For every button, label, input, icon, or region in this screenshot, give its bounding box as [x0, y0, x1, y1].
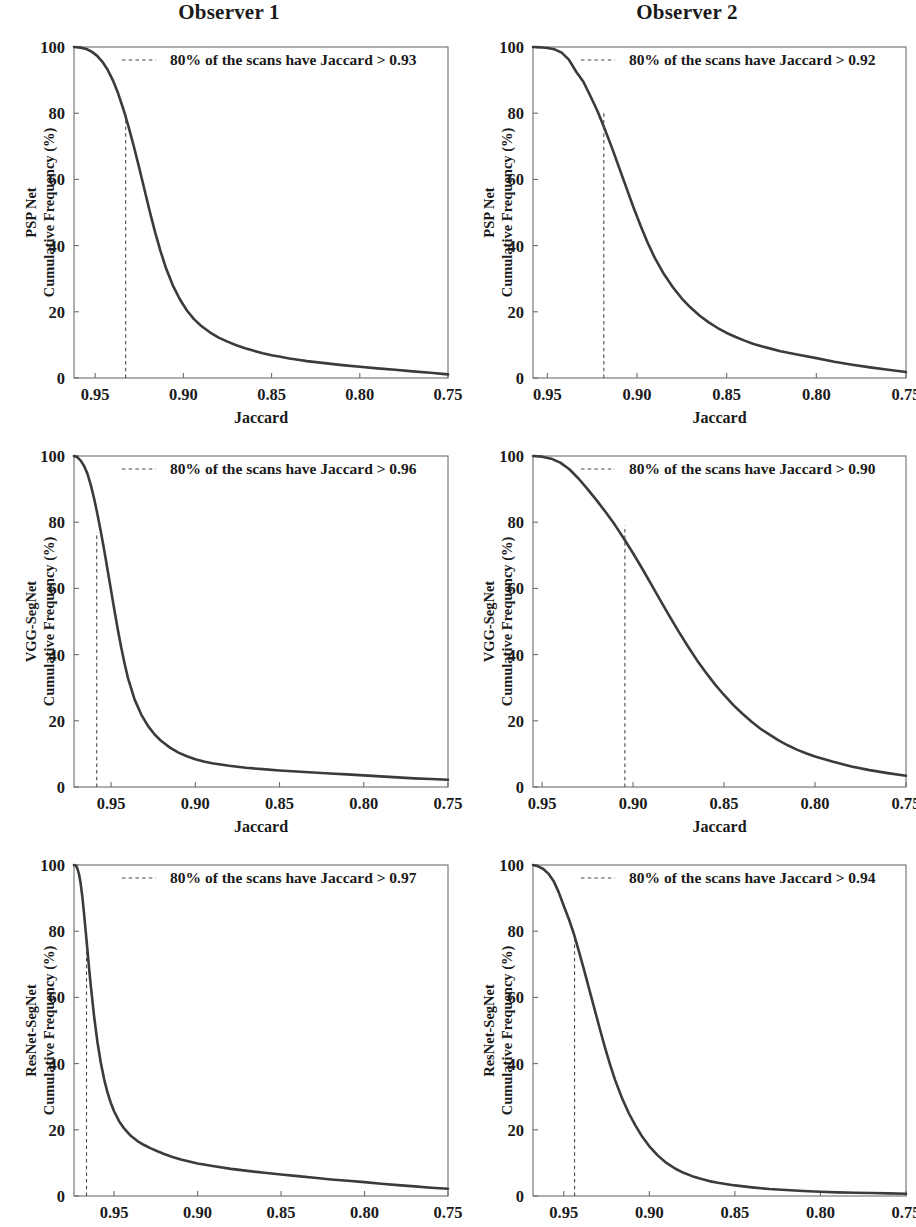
x-tick-label: 0.80	[349, 794, 378, 813]
x-tick-label: 0.80	[350, 1203, 379, 1222]
y-axis-model-label: VGG-SegNet	[481, 581, 497, 663]
y-axis-metric-label: Cumulative Frequency (%)	[499, 127, 516, 297]
panel-vgg-observer2: 0204060801000.950.900.850.800.75JaccardV…	[458, 409, 916, 818]
legend-annotation-text: 80% of the scans have Jaccard > 0.96	[170, 460, 417, 477]
y-tick-label: 0	[57, 1187, 65, 1206]
x-tick-label: 0.90	[183, 1203, 212, 1222]
y-tick-label: 100	[499, 38, 524, 57]
x-tick-label: 0.95	[97, 794, 126, 813]
y-tick-label: 100	[40, 856, 65, 875]
x-tick-label: 0.75	[892, 794, 916, 813]
panel-resnet-observer1: 0204060801000.950.900.850.800.75JaccardR…	[0, 818, 458, 1227]
y-tick-label: 20	[508, 712, 525, 731]
y-tick-label: 80	[49, 104, 66, 123]
x-tick-label: 0.85	[712, 385, 741, 404]
legend-annotation-text: 80% of the scans have Jaccard > 0.93	[170, 51, 417, 68]
y-tick-label: 0	[57, 778, 65, 797]
cumulative-frequency-curve	[74, 456, 448, 780]
x-tick-label: 0.95	[100, 1203, 129, 1222]
cumulative-frequency-figure: Observer 1 0204060801000.950.900.850.800…	[0, 0, 916, 1227]
column-title-observer-1: Observer 1	[0, 0, 458, 25]
y-tick-label: 0	[57, 369, 65, 388]
y-tick-label: 100	[40, 447, 65, 466]
y-tick-label: 100	[499, 856, 524, 875]
x-tick-label: 0.95	[533, 385, 562, 404]
cumulative-frequency-curve	[533, 865, 906, 1194]
x-tick-label: 0.90	[169, 385, 198, 404]
y-axis-model-label: ResNet-SegNet	[481, 984, 497, 1077]
chart-vgg-observer2: 0204060801000.950.900.850.800.75JaccardV…	[458, 409, 916, 818]
x-tick-label: 0.90	[623, 385, 652, 404]
x-tick-label: 0.80	[345, 385, 374, 404]
x-tick-label: 0.80	[801, 794, 830, 813]
cumulative-frequency-curve	[533, 47, 906, 372]
x-tick-label: 0.85	[710, 794, 739, 813]
panel-resnet-observer2: 0204060801000.950.900.850.800.75JaccardR…	[458, 818, 916, 1227]
y-tick-label: 100	[40, 38, 65, 57]
legend-annotation-text: 80% of the scans have Jaccard > 0.94	[629, 869, 876, 886]
plot-frame	[533, 865, 906, 1196]
x-tick-label: 0.85	[265, 794, 294, 813]
plot-frame	[74, 47, 448, 378]
x-tick-label: 0.80	[806, 1203, 835, 1222]
y-axis-model-label: ResNet-SegNet	[23, 984, 39, 1077]
x-tick-label: 0.75	[892, 1203, 916, 1222]
x-tick-label: 0.85	[257, 385, 286, 404]
chart-vgg-observer1: 0204060801000.950.900.850.800.75JaccardV…	[0, 409, 458, 818]
chart-psp-observer2: 0204060801000.950.900.850.800.75JaccardP…	[458, 0, 916, 409]
y-tick-label: 80	[508, 104, 525, 123]
x-tick-label: 0.85	[720, 1203, 749, 1222]
y-tick-label: 80	[508, 513, 525, 532]
y-axis-metric-label: Cumulative Frequency (%)	[41, 127, 58, 297]
y-tick-label: 0	[516, 778, 524, 797]
cumulative-frequency-curve	[533, 456, 906, 776]
y-axis-model-label: PSP Net	[23, 187, 39, 238]
panel-psp-observer2: Observer 2 0204060801000.950.900.850.800…	[458, 0, 916, 409]
y-tick-label: 0	[516, 1187, 524, 1206]
column-title-observer-2: Observer 2	[458, 0, 916, 25]
y-axis-metric-label: Cumulative Frequency (%)	[499, 945, 516, 1115]
x-tick-label: 0.90	[619, 794, 648, 813]
cumulative-frequency-curve	[74, 47, 448, 374]
y-tick-label: 100	[499, 447, 524, 466]
y-tick-label: 20	[49, 303, 66, 322]
y-tick-label: 80	[508, 922, 525, 941]
y-tick-label: 80	[49, 513, 66, 532]
y-tick-label: 20	[49, 1121, 66, 1140]
chart-resnet-observer2: 0204060801000.950.900.850.800.75JaccardR…	[458, 818, 916, 1227]
cumulative-frequency-curve	[74, 865, 448, 1189]
plot-frame	[533, 456, 906, 787]
y-axis-metric-label: Cumulative Frequency (%)	[499, 536, 516, 706]
legend-annotation-text: 80% of the scans have Jaccard > 0.92	[629, 51, 876, 68]
x-tick-label: 0.95	[81, 385, 110, 404]
plot-frame	[74, 865, 448, 1196]
x-tick-label: 0.75	[892, 385, 916, 404]
y-tick-label: 20	[49, 712, 66, 731]
panel-vgg-observer1: 0204060801000.950.900.850.800.75JaccardV…	[0, 409, 458, 818]
chart-resnet-observer1: 0204060801000.950.900.850.800.75JaccardR…	[0, 818, 458, 1227]
x-tick-label: 0.80	[802, 385, 831, 404]
plot-frame	[74, 456, 448, 787]
y-axis-metric-label: Cumulative Frequency (%)	[41, 536, 58, 706]
y-axis-metric-label: Cumulative Frequency (%)	[41, 945, 58, 1115]
x-tick-label: 0.90	[181, 794, 210, 813]
chart-psp-observer1: 0204060801000.950.900.850.800.75JaccardP…	[0, 0, 458, 409]
y-axis-model-label: PSP Net	[481, 187, 497, 238]
legend-annotation-text: 80% of the scans have Jaccard > 0.97	[170, 869, 417, 886]
y-tick-label: 80	[49, 922, 66, 941]
y-tick-label: 0	[516, 369, 524, 388]
y-axis-model-label: VGG-SegNet	[23, 581, 39, 663]
y-tick-label: 20	[508, 1121, 525, 1140]
y-tick-label: 20	[508, 303, 525, 322]
x-tick-label: 0.85	[267, 1203, 296, 1222]
x-tick-label: 0.95	[528, 794, 557, 813]
x-tick-label: 0.95	[549, 1203, 578, 1222]
x-tick-label: 0.90	[635, 1203, 664, 1222]
panel-psp-observer1: Observer 1 0204060801000.950.900.850.800…	[0, 0, 458, 409]
legend-annotation-text: 80% of the scans have Jaccard > 0.90	[629, 460, 876, 477]
